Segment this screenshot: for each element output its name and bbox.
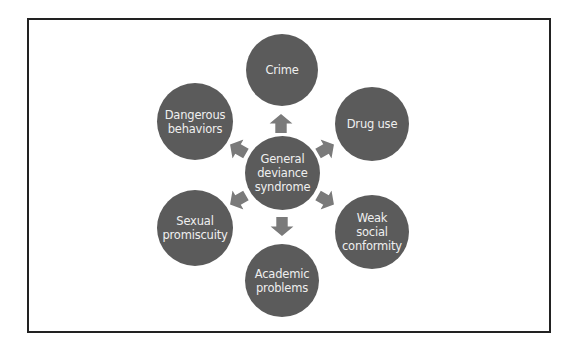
node-drug-use-label: Drug use <box>347 117 398 131</box>
node-sexual-promiscuity: Sexual promiscuity <box>157 190 233 266</box>
node-weak-social-conformity-label: Weak social conformity <box>342 211 402 253</box>
node-dangerous-behaviors: Dangerous behaviors <box>157 83 233 160</box>
node-crime-label: Crime <box>265 63 298 77</box>
node-center-label: General deviance syndrome <box>255 152 311 194</box>
node-crime: Crime <box>246 34 318 106</box>
arrow-up-icon <box>269 114 293 133</box>
node-general-deviance-syndrome: General deviance syndrome <box>245 136 320 210</box>
node-dangerous-behaviors-label: Dangerous behaviors <box>165 108 226 136</box>
node-academic-problems-label: Academic problems <box>255 267 310 295</box>
node-drug-use: Drug use <box>335 87 409 161</box>
node-academic-problems: Academic problems <box>245 244 319 317</box>
node-sexual-promiscuity-label: Sexual promiscuity <box>162 214 227 242</box>
arrow-down-icon <box>270 217 294 236</box>
node-weak-social-conformity: Weak social conformity <box>335 195 409 269</box>
